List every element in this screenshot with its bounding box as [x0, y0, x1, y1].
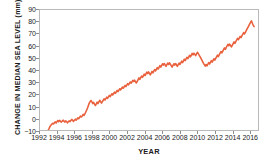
sea-level-chart-figure: CHANGE IN MEDIAN SEA LEVEL (mm) −1001020… — [0, 0, 271, 166]
x-tick-label: 1994 — [49, 134, 65, 141]
x-tick-mark — [74, 131, 75, 134]
x-tick-mark — [162, 131, 163, 134]
x-tick-mark — [92, 131, 93, 134]
x-tick-label: 2008 — [172, 134, 188, 141]
x-tick-mark — [197, 131, 198, 134]
x-tick-mark — [39, 131, 40, 134]
plot-area — [39, 9, 259, 131]
data-line-svg — [40, 10, 258, 130]
x-tick-label: 2006 — [154, 134, 170, 141]
x-tick-label: 2016 — [242, 134, 258, 141]
x-tick-mark — [109, 131, 110, 134]
x-axis-label: YEAR — [39, 147, 259, 156]
x-tick-label: 1998 — [84, 134, 100, 141]
x-tick-label: 2000 — [102, 134, 118, 141]
x-tick-mark — [127, 131, 128, 134]
x-tick-label: 2014 — [225, 134, 241, 141]
x-tick-mark — [233, 131, 234, 134]
x-tick-label: 1996 — [66, 134, 82, 141]
x-tick-label: 2012 — [207, 134, 223, 141]
x-tick-mark — [250, 131, 251, 134]
x-tick-label: 2002 — [119, 134, 135, 141]
x-tick-label: 2010 — [190, 134, 206, 141]
sea-level-line — [48, 21, 254, 130]
x-tick-mark — [57, 131, 58, 134]
x-tick-mark — [180, 131, 181, 134]
x-tick-mark — [145, 131, 146, 134]
x-tick-label: 2004 — [137, 134, 153, 141]
x-tick-mark — [215, 131, 216, 134]
x-tick-label: 1992 — [31, 134, 47, 141]
